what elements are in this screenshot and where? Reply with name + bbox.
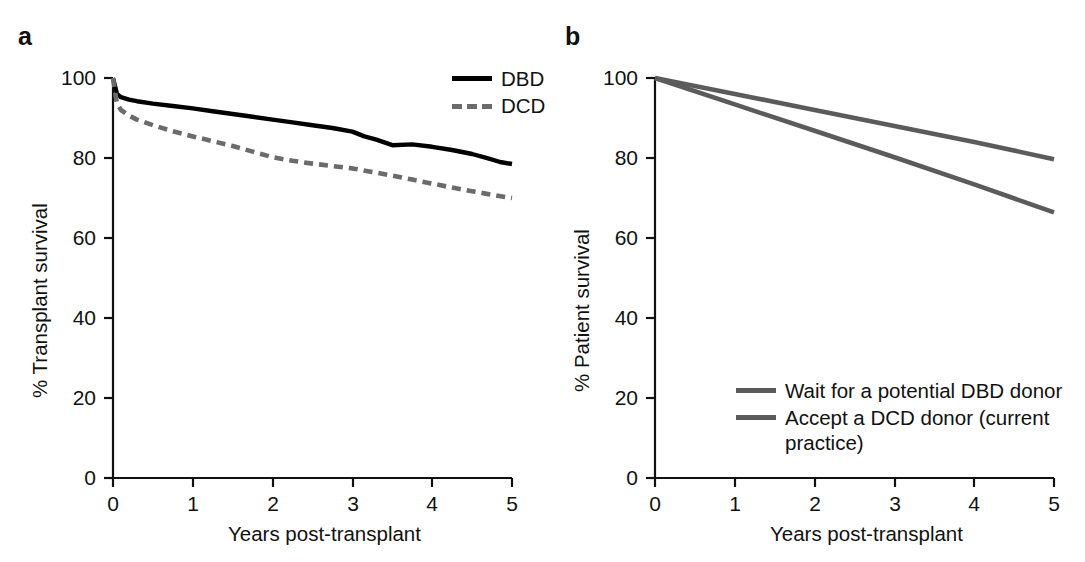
panel-b-xticklabel-4: 4 <box>954 492 994 516</box>
panel-a: a 100 80 60 40 20 0 <box>0 0 543 562</box>
legend-line-solid-icon <box>736 380 776 400</box>
figure-root: a 100 80 60 40 20 0 <box>0 0 1085 562</box>
panel-b-xlabel: Years post-transplant <box>770 522 963 546</box>
panel-a-ylabel: % Transplant survival <box>28 203 52 398</box>
panel-b-xticklabel-2: 2 <box>795 492 835 516</box>
legend-label-wait-dbd: Wait for a potential DBD donor <box>785 378 1062 403</box>
panel-a-yticklabel-0: 0 <box>34 466 96 490</box>
panel-a-xticklabel-5: 5 <box>492 492 532 516</box>
panel-b-xticklabel-3: 3 <box>875 492 915 516</box>
legend-label-dbd: DBD <box>501 66 544 91</box>
panel-b-xticklabel-0: 0 <box>635 492 675 516</box>
legend-item-dbd: DBD <box>452 66 545 91</box>
panel-a-xticklabel-1: 1 <box>173 492 213 516</box>
legend-line-dashed-icon <box>452 95 492 115</box>
panel-b-legend: Wait for a potential DBD donor Accept a … <box>736 378 1062 457</box>
legend-label-dcd: DCD <box>501 93 545 118</box>
panel-b-yticklabel-0: 0 <box>576 466 638 490</box>
panel-a-yticklabel-100: 100 <box>34 66 96 90</box>
legend-item-wait-dbd: Wait for a potential DBD donor <box>736 378 1062 403</box>
legend-item-dcd: DCD <box>452 93 545 118</box>
panel-b-ylabel: % Patient survival <box>570 229 594 392</box>
panel-b-curve-accept-dcd <box>655 78 1054 159</box>
panel-b-yticklabel-100: 100 <box>576 66 638 90</box>
panel-a-yticklabel-80: 80 <box>34 146 96 170</box>
panel-a-legend: DBD DCD <box>452 66 545 120</box>
panel-a-xticklabel-0: 0 <box>93 492 133 516</box>
panel-b-yticklabel-80: 80 <box>576 146 638 170</box>
legend-label-accept-dcd: Accept a DCD donor (current practice) <box>785 405 1049 455</box>
panel-a-xticklabel-3: 3 <box>333 492 373 516</box>
panel-a-xticklabel-4: 4 <box>412 492 452 516</box>
legend-item-accept-dcd: Accept a DCD donor (current practice) <box>736 405 1062 455</box>
panel-a-xticklabel-2: 2 <box>253 492 293 516</box>
legend-line-solid-icon <box>736 407 776 427</box>
panel-a-xlabel: Years post-transplant <box>228 522 421 546</box>
panel-b-xticklabel-1: 1 <box>715 492 755 516</box>
panel-b-xticklabel-5: 5 <box>1034 492 1074 516</box>
panel-b: b 100 80 60 40 20 0 0 1 2 3 4 <box>543 0 1085 562</box>
legend-line-solid-icon <box>452 68 492 88</box>
